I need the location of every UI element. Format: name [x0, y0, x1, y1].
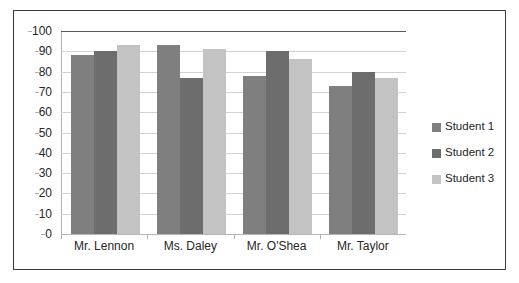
legend-label: Student 1 [445, 121, 494, 133]
y-tick-mark [41, 234, 45, 235]
bar-group [243, 31, 312, 234]
legend-swatch-icon [432, 175, 441, 184]
y-tick-mark [35, 133, 39, 134]
y-tick-label-100: 100 [32, 25, 52, 37]
x-axis-separator [234, 234, 235, 239]
y-tick-mark [35, 92, 39, 93]
y-tick-label-30: 30 [39, 167, 52, 179]
bar [289, 59, 312, 234]
chart-figure: 0102030405060708090100 Mr. LennonMs. Dal… [13, 10, 506, 270]
bar [117, 45, 140, 234]
x-axis-separator [320, 234, 321, 239]
x-axis-separator [61, 234, 62, 239]
bar [180, 78, 203, 234]
y-tick-label-60: 60 [39, 106, 52, 118]
legend-item: Student 1 [432, 121, 502, 133]
bar [375, 78, 398, 234]
legend-swatch-icon [432, 149, 441, 158]
legend-label: Student 2 [445, 147, 494, 159]
bar [94, 51, 117, 234]
y-tick-label-80: 80 [39, 66, 52, 78]
y-tick-label-40: 40 [39, 147, 52, 159]
x-tick-label: Mr. O'Shea [247, 239, 307, 253]
bar-group [157, 31, 226, 234]
legend-item: Student 3 [432, 173, 502, 185]
legend-swatch-icon [432, 123, 441, 132]
bar [266, 51, 289, 234]
y-tick-label-90: 90 [39, 45, 52, 57]
y-tick-mark [35, 193, 39, 194]
y-tick-mark [35, 153, 39, 154]
x-tick-label: Ms. Daley [164, 239, 217, 253]
x-tick-label: Mr. Taylor [337, 239, 389, 253]
x-axis-separator [147, 234, 148, 239]
x-tick-label: Mr. Lennon [74, 239, 134, 253]
legend-label: Student 3 [445, 173, 494, 185]
y-tick-label-20: 20 [39, 187, 52, 199]
y-axis-tick-labels: 0102030405060708090100 [14, 31, 57, 234]
chart-legend: Student 1Student 2Student 3 [432, 121, 502, 199]
y-tick-mark [35, 112, 39, 113]
bar [71, 55, 94, 234]
legend-item: Student 2 [432, 147, 502, 159]
bar-group [329, 31, 398, 234]
bar [352, 72, 375, 234]
y-tick-label-0: 0 [45, 228, 52, 240]
y-tick-mark [35, 51, 39, 52]
y-tick-mark [35, 173, 39, 174]
y-tick-mark [35, 72, 39, 73]
bar [157, 45, 180, 234]
plot-area [61, 31, 406, 234]
x-axis-tick-labels: Mr. LennonMs. DaleyMr. O'SheaMr. Taylor [61, 239, 406, 259]
y-tick-label-10: 10 [39, 208, 52, 220]
bar-group [71, 31, 140, 234]
bar [329, 86, 352, 234]
y-tick-mark [28, 31, 32, 32]
bars-layer [62, 31, 406, 234]
bar [243, 76, 266, 234]
bar [203, 49, 226, 234]
y-tick-mark [35, 214, 39, 215]
y-tick-label-50: 50 [39, 127, 52, 139]
y-tick-label-70: 70 [39, 86, 52, 98]
